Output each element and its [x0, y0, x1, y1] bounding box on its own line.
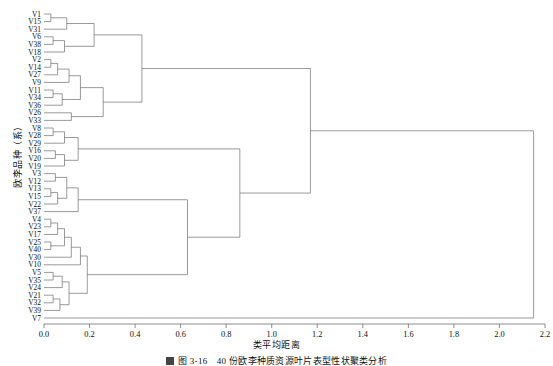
x-axis-label: 类平均距离: [0, 338, 553, 351]
dendrogram-links: [44, 14, 534, 318]
caption-marker-icon: [166, 357, 174, 365]
leaf-label-group: V1V15V31V6V38V18V2V14V27V9V11V34V36V26V3…: [28, 10, 41, 323]
x-axis: 0.00.20.40.60.81.01.21.41.61.82.02.2: [39, 324, 550, 339]
figure-caption: 图 3-16 40 份欧李种质资源叶片表型性状聚类分析: [0, 354, 553, 366]
caption-text: 图 3-16 40 份欧李种质资源叶片表型性状聚类分析: [178, 356, 387, 366]
leaf-label: V7: [32, 314, 41, 323]
dendrogram-figure: 欧李品种（系） V1V15V31V6V38V18V2V14V27V9V11V34…: [0, 0, 553, 366]
dendrogram-plot: V1V15V31V6V38V18V2V14V27V9V11V34V36V26V3…: [0, 0, 553, 340]
